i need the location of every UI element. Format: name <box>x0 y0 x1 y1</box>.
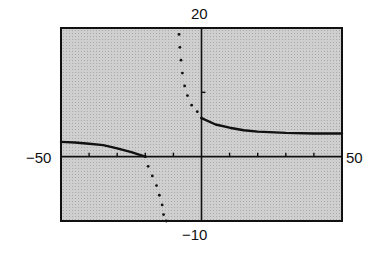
lower-asymptote-branch-dot <box>162 213 165 216</box>
lower-asymptote-branch-dot <box>155 184 158 187</box>
lower-asymptote-branch-dot <box>165 220 168 223</box>
lower-asymptote-branch-dot <box>151 175 154 178</box>
lower-asymptote-branch-dot <box>147 165 150 168</box>
upper-asymptote-branch-dot <box>180 59 183 62</box>
lower-asymptote-branch-dot <box>144 155 147 158</box>
upper-asymptote-branch-dot <box>186 94 189 97</box>
upper-asymptote-branch-dot <box>178 33 181 36</box>
graph-plot <box>0 0 382 255</box>
upper-asymptote-branch-dot <box>190 104 193 107</box>
upper-asymptote-branch-dot <box>178 46 181 49</box>
upper-asymptote-branch-dot <box>183 85 186 88</box>
lower-asymptote-branch-dot <box>161 204 164 207</box>
upper-asymptote-branch-dot <box>181 72 184 75</box>
lower-asymptote-branch-dot <box>158 194 161 197</box>
upper-asymptote-branch-dot <box>196 110 199 113</box>
